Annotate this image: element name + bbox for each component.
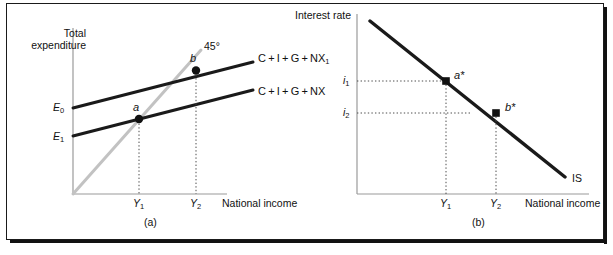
panel-b-is-curve [370,21,565,177]
panel-b-plot [300,0,613,255]
panel-b-point-b-star-marker [492,109,500,117]
panel-a-y-axis-title: Total expenditure [26,27,86,51]
panel-b: Interest rate i1 i2 a* b* IS Y1 Y2 Natio… [300,0,613,255]
panel-a-caption: (a) [144,216,157,228]
panel-a-point-a-label: a [133,101,139,114]
panel-a-point-b-label: b [190,52,196,65]
panel-a-curve-upper [73,62,253,108]
panel-b-point-b-star-label: b* [505,101,515,114]
panel-b-x-axis-title: National income [525,197,600,209]
panel-a-curve-lower [73,90,253,136]
panel-b-x-tick-y1: Y1 [440,197,451,210]
figure-root: Total expenditure 45° C + I + G + NX1 C … [0,0,613,255]
panel-a-point-a-marker [135,115,143,123]
panel-a-45-degree-label: 45° [204,40,220,52]
panel-a-y-intercept-e1: E1 [53,130,64,143]
panel-a-point-b-marker [192,66,200,74]
panel-b-y-tick-i1: i1 [343,74,350,87]
panel-b-is-curve-label: IS [572,172,582,184]
panel-a: Total expenditure 45° C + I + G + NX1 C … [0,0,310,255]
panel-a-y-axis-title-line1: Total [64,27,86,39]
panel-b-y-tick-i2: i2 [343,106,350,119]
panel-a-x-axis-title: National income [222,197,297,209]
panel-a-y-axis-title-line2: expenditure [31,39,86,51]
panel-b-point-a-star-marker [442,77,450,85]
panel-a-y-intercept-e0: E0 [53,101,64,114]
panel-a-x-tick-y2: Y2 [190,197,201,210]
panel-b-y-axis-title: Interest rate [295,9,351,21]
panel-a-x-tick-y1: Y1 [133,197,144,210]
panel-b-point-a-star-label: a* [454,69,464,82]
panel-b-x-tick-y2: Y2 [490,197,501,210]
panel-b-caption: (b) [472,216,485,228]
